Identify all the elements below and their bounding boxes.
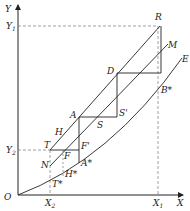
y1-label: Y1 — [6, 21, 16, 32]
y2-label: Y2 — [6, 145, 16, 156]
x2-label: X2 — [44, 198, 55, 209]
point-D: D — [106, 66, 114, 76]
point-R: R — [154, 12, 162, 22]
point-S: S — [97, 120, 103, 130]
point-E: E — [181, 54, 189, 64]
y-axis-label: Y — [5, 4, 12, 14]
point-F: F — [63, 151, 71, 161]
point-A-star: A* — [80, 158, 92, 168]
origin-label: O — [4, 192, 12, 202]
point-A: A — [69, 110, 77, 120]
point-T: T — [44, 140, 51, 150]
line-TR — [50, 26, 160, 150]
point-T-star: T* — [52, 179, 63, 189]
x-axis-label: X — [176, 198, 184, 208]
point-N: N — [40, 160, 50, 170]
economics-diagram: Y X O Y1 Y2 X2 X1 R M E D B* A S S' H T … — [0, 0, 190, 211]
point-H: H — [54, 127, 63, 137]
point-F-prime: F' — [80, 141, 90, 151]
point-B-star: B* — [160, 85, 173, 95]
point-M: M — [167, 40, 178, 50]
line-NM — [50, 44, 168, 166]
point-H-star: H* — [64, 169, 78, 179]
x1-label: X1 — [152, 198, 163, 209]
point-S-prime: S' — [119, 108, 128, 118]
